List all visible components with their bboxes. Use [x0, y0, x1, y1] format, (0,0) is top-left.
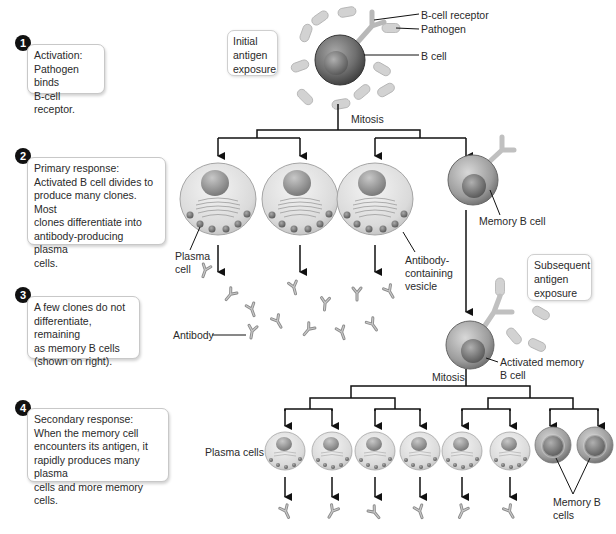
subsequent-exposure-text: Subsequent antigen exposure [534, 259, 590, 299]
step-1-box: Activation: Pathogen binds B-cell recept… [27, 44, 105, 94]
label-mitosis-1: Mitosis [351, 113, 384, 126]
antibodies-row-2 [280, 505, 517, 520]
step-3-text: A few clones do not differentiate, remai… [34, 301, 125, 367]
initial-exposure-text: Initial antigen exposure [233, 35, 276, 75]
label-pathogen: Pathogen [421, 23, 466, 36]
b-cell-receptor-top [356, 12, 384, 44]
row2-antibody-arrows [285, 477, 510, 497]
mitosis-tree-1 [218, 104, 466, 156]
step-2-box: Primary response: Activated B cell divid… [27, 157, 166, 245]
initial-exposure-callout: Initial antigen exposure [227, 30, 278, 76]
label-b-cell: B cell [421, 50, 447, 63]
plasma-cells-row-2 [265, 432, 530, 470]
label-plasma-cells: Plasma cells [205, 446, 264, 459]
label-antibody: Antibody [173, 329, 214, 342]
memory-b-cells-row-2 [535, 427, 613, 494]
step-4-text: Secondary response: When the memory cell… [34, 413, 148, 506]
plasma-cells-row-1 [180, 163, 413, 235]
antibodies-row-1 [199, 264, 396, 340]
b-cell-top [315, 35, 365, 85]
label-memory-b-cells: Memory B cells [553, 496, 601, 522]
step-3-box: A few clones do not differentiate, remai… [27, 296, 140, 359]
memory-b-cell [448, 137, 514, 215]
subsequent-exposure-callout: Subsequent antigen exposure [527, 254, 592, 301]
step-4-box: Secondary response: When the memory cell… [27, 408, 169, 482]
label-b-cell-receptor: B-cell receptor [421, 9, 489, 22]
label-activated-memory-b-cell: Activated memory B cell [500, 356, 584, 382]
label-plasma-cell: Plasma cell [175, 250, 210, 276]
label-memory-b-cell: Memory B cell [479, 215, 546, 228]
label-antibody-vesicle: Antibody- containing vesicle [405, 254, 453, 293]
label-mitosis-2: Mitosis [432, 371, 465, 384]
